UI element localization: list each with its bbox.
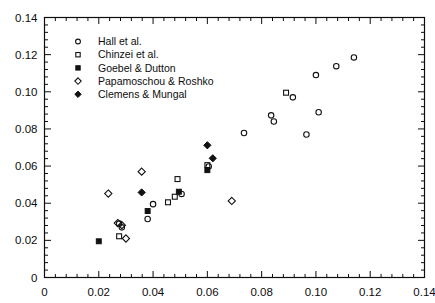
data-point	[145, 209, 150, 214]
data-point	[304, 132, 309, 137]
y-axis-tick-label: 0.08	[15, 123, 37, 135]
x-axis-tick-label: 0.10	[305, 286, 327, 298]
data-point	[241, 130, 246, 135]
legend-marker-open-diamond	[75, 78, 81, 84]
data-point	[145, 216, 150, 221]
legend-label: Clemens & Mungal	[98, 88, 187, 100]
data-point	[351, 55, 356, 60]
data-point	[228, 197, 235, 204]
x-axis-tick-label: 0.08	[250, 286, 272, 298]
data-point	[271, 119, 276, 124]
data-point	[268, 113, 273, 118]
data-point	[166, 200, 171, 205]
y-axis-tick-label: 0.14	[15, 12, 38, 24]
series-chinzei-et-al	[117, 90, 289, 238]
x-axis-tick-label: 0.06	[196, 286, 218, 298]
data-point	[138, 168, 145, 175]
y-axis-tick-label: 0.02	[15, 234, 37, 246]
x-axis-tick-label: 0.02	[88, 286, 110, 298]
legend-label: Hall et al.	[98, 35, 142, 47]
legend-marker-open-square	[76, 53, 80, 57]
x-axis-tick-label: 0	[41, 286, 47, 298]
x-axis-tick-label: 0.12	[359, 286, 381, 298]
data-point	[313, 72, 318, 77]
legend: Hall et al.Chinzei et al.Goebel & Dutton…	[75, 35, 214, 100]
legend-marker-filled-square	[76, 66, 80, 70]
plot-canvas: 00.020.040.060.080.100.120.1400.020.040.…	[0, 0, 435, 303]
data-point	[290, 95, 295, 100]
data-point	[334, 63, 339, 68]
data-point	[175, 177, 180, 182]
y-axis-tick-label: 0.06	[15, 160, 37, 172]
legend-marker-open-circle	[76, 39, 81, 44]
legend-label: Chinzei et al.	[98, 48, 159, 60]
data-point	[204, 142, 211, 149]
data-point	[284, 90, 289, 95]
data-point	[105, 190, 112, 197]
x-axis-tick-label: 0.14	[413, 286, 435, 298]
axes-group: 00.020.040.060.080.100.120.1400.020.040.…	[15, 12, 435, 298]
x-axis-tick-label: 0.04	[142, 286, 165, 298]
legend-label: Papamoschou & Roshko	[98, 75, 214, 87]
data-point	[316, 109, 321, 114]
series-goebel-dutton	[96, 168, 209, 244]
data-point	[96, 239, 101, 244]
y-axis-tick-label: 0	[31, 272, 37, 284]
data-point	[150, 201, 155, 206]
y-axis-tick-label: 0.10	[15, 86, 37, 98]
data-point	[138, 189, 145, 196]
data-point	[117, 234, 122, 239]
legend-label: Goebel & Dutton	[98, 62, 176, 74]
y-axis-tick-label: 0.12	[15, 49, 37, 61]
data-point	[122, 235, 129, 242]
data-point	[209, 155, 216, 162]
scatter-plot-figure: 00.020.040.060.080.100.120.1400.020.040.…	[0, 0, 435, 303]
data-point	[172, 194, 177, 199]
y-axis-tick-label: 0.04	[15, 197, 38, 209]
data-point	[176, 189, 181, 194]
legend-marker-filled-diamond	[75, 91, 81, 97]
data-point	[205, 168, 210, 173]
